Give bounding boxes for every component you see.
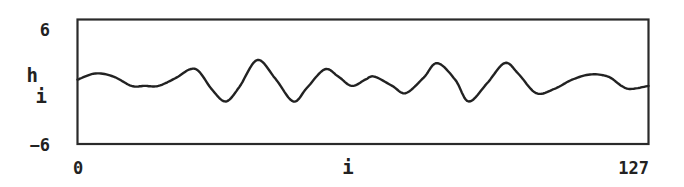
x-axis-label: i bbox=[342, 156, 353, 178]
line-chart: 6 −6 h i 0 i 127 bbox=[0, 0, 684, 187]
y-axis-label-subscript: i bbox=[36, 85, 47, 107]
y-tick-top: 6 bbox=[40, 20, 50, 40]
x-tick-left: 0 bbox=[73, 158, 83, 178]
y-tick-bottom: −6 bbox=[30, 135, 50, 155]
x-tick-right: 127 bbox=[618, 158, 649, 178]
y-axis-label: h bbox=[27, 64, 38, 86]
data-line bbox=[78, 60, 649, 102]
